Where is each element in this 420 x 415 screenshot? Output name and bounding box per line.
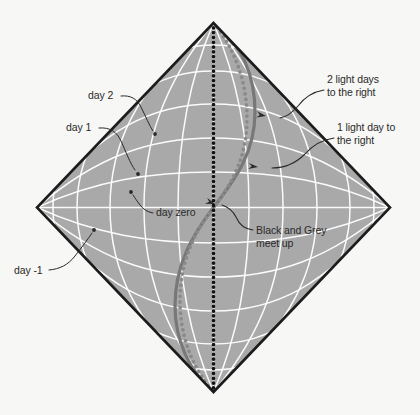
leader-dot-day-minus-1 — [92, 228, 96, 232]
label-line: the right — [337, 134, 374, 146]
label-line: day zero — [156, 206, 196, 218]
figure-root: day 2day 1day zeroday -12 light daysto t… — [0, 0, 420, 415]
leader-dot-day-1 — [136, 172, 140, 176]
label-day-zero: day zero — [156, 206, 196, 218]
label-two-light-days: 2 light daysto the right — [327, 73, 379, 98]
label-line: 1 light day to — [337, 121, 395, 133]
label-line: meet up — [256, 237, 293, 249]
label-line: 2 light days — [327, 73, 379, 85]
label-line: day 2 — [88, 89, 113, 101]
spacetime-diagram: day 2day 1day zeroday -12 light daysto t… — [0, 0, 420, 415]
leader-dot-day-zero — [129, 190, 133, 194]
leader-dot-day-2 — [153, 132, 157, 136]
label-line: day -1 — [14, 264, 43, 276]
label-day-1: day 1 — [66, 121, 91, 133]
label-day-2: day 2 — [88, 89, 113, 101]
label-line: day 1 — [66, 121, 91, 133]
label-line: Black and Grey — [256, 224, 327, 236]
label-day-minus-1: day -1 — [14, 264, 43, 276]
label-line: to the right — [327, 86, 376, 98]
